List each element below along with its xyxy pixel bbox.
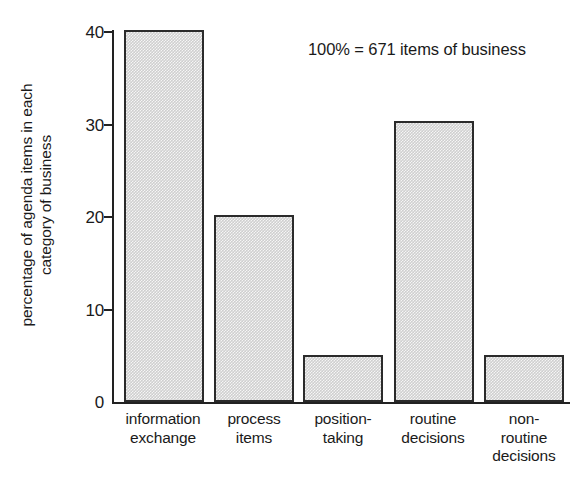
y-axis-title-line-2: category of business [36, 83, 55, 326]
y-tick-label-0: 0 [70, 394, 104, 411]
y-tick-mark-10 [104, 309, 113, 311]
chart-annotation: 100% = 671 items of business [308, 40, 526, 59]
y-tick-mark-20 [104, 216, 113, 218]
bar-chart: percentage of agenda items in each categ… [0, 0, 588, 483]
y-tick-label-20: 20 [70, 209, 104, 226]
x-axis-label-non-routine-decisions: non- routine decisions [466, 410, 582, 466]
x-label-line: decisions [466, 447, 582, 466]
bar-position-taking[interactable] [303, 355, 383, 402]
y-axis-title: percentage of agenda items in each categ… [8, 0, 64, 410]
y-tick-label-10: 10 [70, 302, 104, 319]
bar-non-routine-decisions[interactable] [484, 355, 564, 402]
x-label-line: routine [466, 429, 582, 448]
y-axis-title-line-1: percentage of agenda items in each [17, 83, 36, 326]
y-tick-label-40: 40 [70, 24, 104, 41]
y-tick-mark-40 [104, 31, 113, 33]
x-label-line: non- [466, 410, 582, 429]
plot-area [114, 30, 570, 402]
bar-routine-decisions[interactable] [394, 121, 474, 402]
x-axis-line [112, 402, 570, 404]
y-tick-mark-30 [104, 124, 113, 126]
y-axis-tick-labels: 40 30 20 10 0 [66, 0, 104, 483]
y-tick-label-30: 30 [70, 117, 104, 134]
bar-information-exchange[interactable] [124, 30, 204, 402]
bar-process-items[interactable] [214, 215, 294, 402]
